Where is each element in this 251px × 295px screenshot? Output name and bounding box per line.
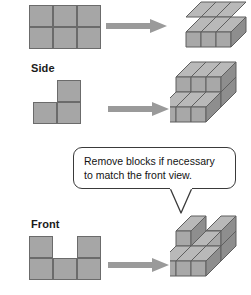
- grid-cell: [57, 102, 81, 124]
- arrow-right-icon: [106, 18, 168, 38]
- grid-cell: [77, 27, 101, 49]
- grid-cell: [29, 236, 53, 258]
- arrow-right-icon: [108, 257, 170, 277]
- grid-cell: [57, 80, 81, 102]
- grid-cell: [53, 258, 77, 280]
- diagram-canvas: Side: [0, 0, 251, 295]
- front-view-label: Front: [31, 218, 60, 230]
- side-view-label: Side: [31, 62, 55, 74]
- step-top-row: [0, 0, 251, 55]
- grid-cell: [29, 258, 53, 280]
- grid-cell: [53, 5, 77, 27]
- side-view-grid: [33, 80, 81, 124]
- grid-cell: [33, 102, 57, 124]
- grid-cell-empty: [33, 80, 57, 102]
- block-structure-layer-1: [180, 0, 251, 56]
- grid-cell: [77, 258, 101, 280]
- step-front-row: Front: [0, 214, 251, 295]
- instruction-callout-text: Remove blocks if necessary to match the …: [84, 154, 226, 182]
- grid-cell: [53, 27, 77, 49]
- front-view-grid: [29, 236, 101, 280]
- instruction-callout: Remove blocks if necessary to match the …: [73, 147, 236, 189]
- grid-cell: [77, 236, 101, 258]
- block-structure-stepped: [170, 59, 251, 139]
- arrow-right-icon: [108, 101, 170, 121]
- grid-cell: [29, 27, 53, 49]
- top-view-grid: [29, 5, 101, 49]
- grid-cell: [29, 5, 53, 27]
- grid-cell: [77, 5, 101, 27]
- block-structure-final: [170, 213, 251, 295]
- step-side-row: Side: [0, 58, 251, 136]
- grid-cell-empty: [53, 236, 77, 258]
